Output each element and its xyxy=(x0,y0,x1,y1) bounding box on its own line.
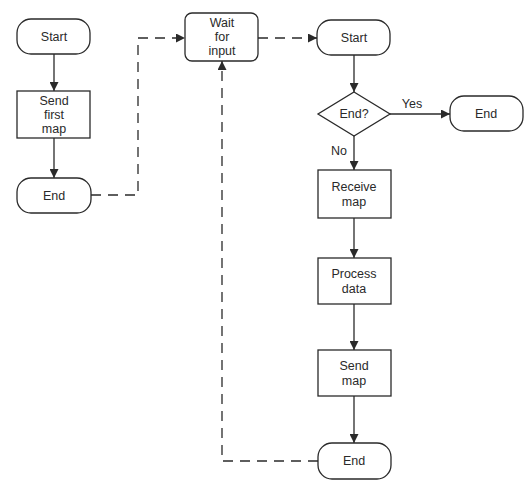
node-wait-for-input: Wait for input xyxy=(185,13,258,61)
node-send-first-map-line-2: first xyxy=(44,108,65,122)
edge-label-no: No xyxy=(331,144,347,158)
node-receive-map-line-2: map xyxy=(342,195,366,209)
node-process-data-line-2: data xyxy=(342,282,366,296)
node-end-decision: End? xyxy=(318,92,390,136)
node-receive-map: Receive map xyxy=(318,170,391,218)
node-send-map-line-2: map xyxy=(342,374,366,388)
node-process-data-line-1: Process xyxy=(331,267,376,281)
node-left-end: End xyxy=(17,178,91,213)
node-left-end-label: End xyxy=(43,189,65,203)
node-send-first-map-line-3: map xyxy=(42,122,66,136)
node-send-map-line-1: Send xyxy=(339,359,368,373)
node-bottom-end-label: End xyxy=(343,454,365,468)
node-wait-line-1: Wait xyxy=(210,16,235,30)
node-yes-end-label: End xyxy=(475,107,497,121)
node-wait-line-2: for xyxy=(215,30,230,44)
node-send-first-map: Send first map xyxy=(17,91,90,138)
node-receive-map-line-1: Receive xyxy=(331,180,376,194)
node-right-start-label: Start xyxy=(341,31,368,45)
node-send-first-map-line-1: Send xyxy=(39,94,68,108)
node-bottom-end: End xyxy=(318,443,391,479)
node-left-start-label: Start xyxy=(41,30,68,44)
node-wait-line-3: input xyxy=(208,44,236,58)
node-process-data: Process data xyxy=(318,258,391,304)
node-left-start: Start xyxy=(17,19,90,54)
node-yes-end: End xyxy=(450,96,523,131)
edge-end-to-wait-loop-dashed xyxy=(222,61,318,461)
node-end-decision-label: End? xyxy=(339,107,368,121)
flowchart-diagram: Yes No Start Send first map End Wait for… xyxy=(0,0,531,492)
edge-label-yes: Yes xyxy=(402,97,422,111)
node-send-map: Send map xyxy=(318,350,391,396)
edge-end-to-wait-dashed xyxy=(91,38,185,195)
node-right-start: Start xyxy=(317,20,390,55)
